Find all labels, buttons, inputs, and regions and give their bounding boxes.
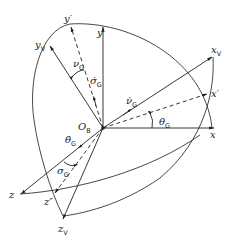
x-prime-axis [103,94,207,128]
xv-arc [63,57,213,216]
label-nu-g: νG [73,58,84,72]
label-nu-dot-g: ν̇G [126,95,137,109]
sigma-dot-arrow [94,98,96,106]
label-x-v: xV [211,44,222,58]
origin-point [101,126,105,130]
label-z: z [8,189,15,200]
z-axis [21,128,103,194]
label-x-prime: x′ [211,88,220,99]
label-theta-dot-g: θ̇G [65,134,76,148]
label-origin: OB [78,121,91,135]
left-arc [33,24,71,216]
label-z-v: zV [57,223,68,237]
bottom-arc [20,135,200,194]
coordinate-frame-diagram: y′ y yV xV x′ x z z″ zV OB νG σ̇G ν̇G θG… [0,0,231,246]
theta-dot-arrow [80,144,83,147]
x-v-axis [103,57,212,128]
nu-dot-arrow [123,110,130,115]
label-y-v: yV [34,39,46,53]
label-z-dprime: z″ [43,196,53,207]
label-x: x [210,129,216,140]
label-sigma-dot-g: σ̇G [90,75,102,89]
label-y-prime: y′ [63,13,73,24]
label-y: y [96,27,103,38]
sigma-angle-arc [64,162,76,166]
y-prime-axis [71,27,103,128]
label-sigma-g: σG [57,165,69,179]
theta-angle-arc [150,113,153,128]
diagram-canvas: y′ y yV xV x′ x z z″ zV OB νG σ̇G ν̇G θG… [0,0,231,246]
